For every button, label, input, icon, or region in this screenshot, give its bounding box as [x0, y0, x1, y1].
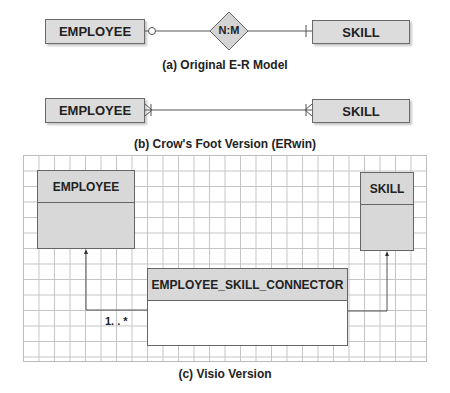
caption-c: (c) Visio Version — [0, 367, 450, 381]
connector-table-label: EMPLOYEE_SKILL_CONNECTOR — [152, 278, 344, 292]
arrow-up-icon — [84, 249, 88, 254]
multiplicity-label: 1. . * — [105, 315, 128, 327]
connector-table-header: EMPLOYEE_SKILL_CONNECTOR — [148, 269, 347, 301]
connector-table-body — [148, 301, 347, 345]
connector-table[interactable]: EMPLOYEE_SKILL_CONNECTOR — [147, 268, 348, 346]
arrow-up-icon — [385, 251, 389, 256]
